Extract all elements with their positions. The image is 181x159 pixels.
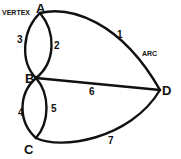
vertex-b-label: B — [25, 71, 34, 86]
edge-5 — [36, 78, 47, 138]
graph-diagram: VERTEX A B C D 1 ARC 2 3 4 5 6 7 — [0, 0, 181, 159]
edge-3-label: 3 — [17, 34, 23, 45]
edge-6-label: 6 — [89, 86, 95, 97]
vertex-a-label: A — [36, 1, 46, 16]
edge-6 — [36, 78, 160, 90]
edge-7 — [36, 90, 160, 143]
edge-7-label: 7 — [108, 135, 114, 146]
edge-1-label: 1 — [117, 29, 123, 40]
edge-3 — [25, 13, 40, 78]
edge-4 — [23, 78, 37, 138]
vertex-c-label: C — [24, 142, 34, 157]
edge-2-label: 2 — [54, 40, 60, 51]
edge-5-label: 5 — [51, 103, 57, 114]
arc-annotation: ARC — [142, 50, 157, 57]
vertex-d-label: D — [162, 83, 171, 98]
edge-2 — [36, 13, 52, 78]
edge-4-label: 4 — [18, 107, 24, 118]
vertex-annotation: VERTEX — [2, 9, 30, 16]
